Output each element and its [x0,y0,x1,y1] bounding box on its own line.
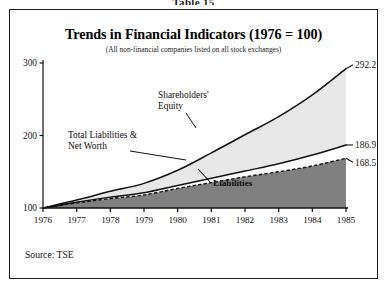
annotation-shareholders-equity-line2: Equity [158,101,183,111]
x-axis-tick-label: 1981 [202,215,221,225]
annotation-total-liabilities: Total Liabilities & [68,130,138,140]
x-axis-tick-label: 1978 [101,215,120,225]
figure-inner: Trends in Financial Indicators (1976 = 1… [10,10,377,278]
annotation-total-liabilities-line2: Net Worth [68,141,107,151]
x-axis-tick-label: 1976 [34,215,53,225]
x-axis-tick-label: 1977 [67,215,86,225]
source-note: Source: TSE [25,249,74,260]
x-axis-tick-label: 1982 [236,215,255,225]
annotation-shareholders-equity: Shareholders' [158,90,209,100]
figure-page: Table 15 Trends in Financial Indicators … [0,0,387,285]
y-axis-tick-label: 200 [23,131,37,141]
y-axis-tick-label: 300 [23,58,37,68]
table-caption: Table 15 [0,0,387,5]
figure-frame: Trends in Financial Indicators (1976 = 1… [9,9,378,279]
x-axis-tick-label: 1985 [337,215,356,225]
x-axis-tick-label: 1983 [269,215,288,225]
annotation-liabilities: Liabilities [213,178,253,188]
y-axis-tick-label: 100 [23,203,37,213]
x-axis-tick-label: 1984 [303,215,322,225]
endpoint-label-liabilities: 168.5 [355,158,376,168]
x-axis-tick-label: 1980 [168,215,187,225]
endpoint-label-equity: 186.9 [355,140,376,150]
x-axis-tick-label: 1979 [135,215,154,225]
chart-plot: 1002003001976197719781979198019811982198… [10,10,376,277]
endpoint-label-total: 292.2 [355,60,376,70]
